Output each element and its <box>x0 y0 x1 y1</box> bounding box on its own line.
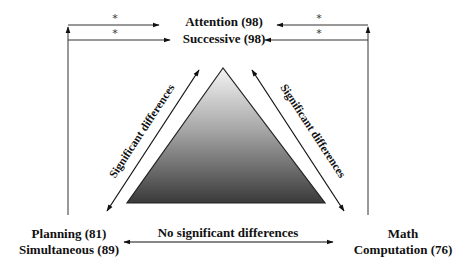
edge-bottom-label: No significant differences <box>158 225 299 240</box>
significance-marker: * <box>316 12 322 25</box>
node-top-successive: Successive (98) <box>183 31 266 46</box>
node-bottom-right-math: Math <box>388 226 419 241</box>
node-bottom-right-computation: Computation (76) <box>354 242 453 257</box>
comparison-diagram: Attention (98) Successive (98) * * * * S… <box>0 0 472 270</box>
significance-marker: * <box>316 27 322 40</box>
significance-marker: * <box>112 27 118 40</box>
node-bottom-left-planning: Planning (81) <box>32 226 107 241</box>
node-bottom-left-simultaneous: Simultaneous (89) <box>19 242 119 257</box>
node-top-attention: Attention (98) <box>185 14 263 29</box>
significance-marker: * <box>112 12 118 25</box>
